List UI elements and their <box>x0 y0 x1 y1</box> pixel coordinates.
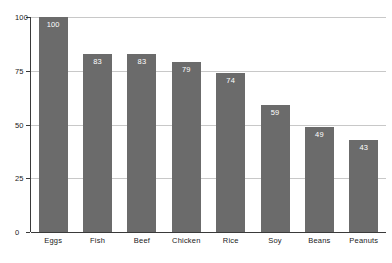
bar-fish[interactable]: 83 <box>83 54 112 232</box>
bar-value-label: 100 <box>39 21 68 29</box>
y-tick-label-100: 100 <box>15 13 23 22</box>
bar-value-label: 79 <box>172 66 201 74</box>
x-category-label-beans: Beans <box>297 236 341 245</box>
bar-slot: 79 <box>164 17 208 232</box>
x-category-label-fish: Fish <box>75 236 119 245</box>
bar-beans[interactable]: 49 <box>305 127 334 232</box>
bar-beef[interactable]: 83 <box>127 54 156 232</box>
x-category-label-soy: Soy <box>253 236 297 245</box>
bar-slot: 83 <box>120 17 164 232</box>
bar-peanuts[interactable]: 43 <box>349 140 378 232</box>
bar-slot: 59 <box>253 17 297 232</box>
bar-value-label: 49 <box>305 131 334 139</box>
y-tick-mark-0 <box>26 232 30 233</box>
bar-slot: 43 <box>342 17 386 232</box>
bar-slot: 100 <box>31 17 75 232</box>
bar-slot: 83 <box>75 17 119 232</box>
x-category-label-chicken: Chicken <box>164 236 208 245</box>
y-tick-label-75: 75 <box>15 66 23 75</box>
x-category-label-beef: Beef <box>120 236 164 245</box>
bar-rice[interactable]: 74 <box>216 73 245 232</box>
y-tick-label-0: 0 <box>15 228 23 237</box>
y-tick-label-50: 50 <box>15 120 23 129</box>
bar-slot: 49 <box>297 17 341 232</box>
bar-value-label: 43 <box>349 144 378 152</box>
bar-value-label: 83 <box>127 58 156 66</box>
bar-value-label: 74 <box>216 77 245 85</box>
bar-value-label: 59 <box>261 109 290 117</box>
bar-chart: 0255075100 10083837974594943 EggsFishBee… <box>0 0 392 263</box>
bar-chicken[interactable]: 79 <box>172 62 201 232</box>
gridline-0 <box>31 232 386 233</box>
y-tick-label-25: 25 <box>15 174 23 183</box>
x-axis-category-labels: EggsFishBeefChickenRiceSoyBeansPeanuts <box>31 236 386 245</box>
bar-eggs[interactable]: 100 <box>39 17 68 232</box>
bar-series: 10083837974594943 <box>31 17 386 232</box>
x-category-label-rice: Rice <box>209 236 253 245</box>
x-category-label-peanuts: Peanuts <box>342 236 386 245</box>
bar-soy[interactable]: 59 <box>261 105 290 232</box>
x-category-label-eggs: Eggs <box>31 236 75 245</box>
bar-slot: 74 <box>209 17 253 232</box>
bar-value-label: 83 <box>83 58 112 66</box>
